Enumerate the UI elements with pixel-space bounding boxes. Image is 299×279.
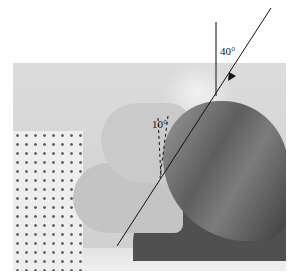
angle-label-10: 10° xyxy=(152,118,167,130)
positioning-lines xyxy=(0,0,299,279)
angle-label-40: 40° xyxy=(220,45,235,57)
arrowhead-icon xyxy=(228,72,236,81)
central-ray-line xyxy=(117,8,271,246)
